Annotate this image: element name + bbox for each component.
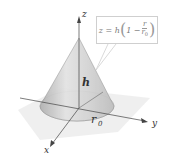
equation-callout: z = h ( 1 − r r0 ) xyxy=(96,16,158,44)
radius-subscript: 0 xyxy=(98,120,103,128)
y-axis-label: y xyxy=(151,118,158,128)
radius-label: r xyxy=(91,113,97,126)
z-axis-label: z xyxy=(81,9,87,19)
equation-inner: 1 − xyxy=(126,26,140,35)
y-arrow-icon xyxy=(141,118,148,123)
denominator-subscript: 0 xyxy=(145,32,148,38)
right-paren: ) xyxy=(149,22,155,38)
equation-fraction: r r0 xyxy=(141,21,148,38)
fraction-denominator: r0 xyxy=(141,29,148,38)
equation-lhs: z = h xyxy=(99,26,120,35)
callout-pointer xyxy=(96,44,116,70)
x-axis-label: x xyxy=(44,145,49,155)
z-arrow-icon xyxy=(77,16,81,23)
height-label: h xyxy=(82,76,90,89)
